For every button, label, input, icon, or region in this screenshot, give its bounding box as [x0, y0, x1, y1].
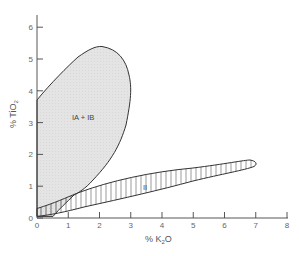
tio2-vs-k2o-chart: 0 1 2 3 4 5 6 0 1 2 3 4 5 6 7 8 % K2O % … — [0, 0, 299, 256]
x-tick-0: 0 — [35, 221, 40, 230]
y-tick-4: 4 — [29, 87, 34, 96]
y-tick-1: 1 — [29, 182, 34, 191]
x-tick-4: 4 — [160, 221, 165, 230]
y-tick-3: 3 — [29, 119, 34, 128]
x-tick-8: 8 — [285, 221, 290, 230]
y-tick-6: 6 — [29, 23, 34, 32]
y-tick-labels: 0 1 2 3 4 5 6 — [29, 23, 34, 223]
x-axis-title: % K2O — [145, 234, 172, 245]
y-axis-title: % TiO2 — [8, 99, 19, 128]
x-tick-2: 2 — [97, 221, 102, 230]
region-label-ia-ib: IA + IB — [72, 113, 94, 122]
x-tick-7: 7 — [254, 221, 259, 230]
y-tick-0: 0 — [29, 214, 34, 223]
x-tick-3: 3 — [129, 221, 134, 230]
x-tick-6: 6 — [222, 221, 227, 230]
y-tick-2: 2 — [29, 150, 34, 159]
x-axis — [37, 212, 288, 218]
x-tick-5: 5 — [191, 221, 196, 230]
x-tick-labels: 0 1 2 3 4 5 6 7 8 — [35, 221, 290, 230]
y-tick-5: 5 — [29, 55, 34, 64]
x-tick-1: 1 — [66, 221, 71, 230]
region-label-ii: II — [143, 183, 147, 192]
